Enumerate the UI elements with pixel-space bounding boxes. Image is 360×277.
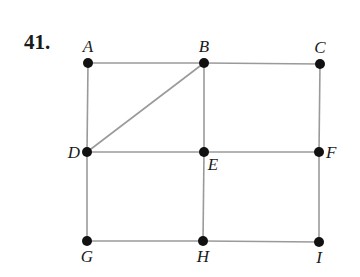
edge-H-I xyxy=(203,241,319,242)
vertex-I xyxy=(314,237,324,247)
vertex-C xyxy=(315,59,325,69)
vertex-label-D: D xyxy=(67,143,81,162)
vertex-label-I: I xyxy=(315,248,323,267)
vertex-G xyxy=(82,236,92,246)
edge-B-D xyxy=(87,63,204,152)
vertex-label-F: F xyxy=(325,143,337,162)
edge-A-D xyxy=(87,63,88,152)
graph-diagram: ABCDEFGHI xyxy=(0,0,360,277)
edge-E-H xyxy=(203,152,204,241)
vertex-label-C: C xyxy=(314,38,326,57)
vertex-B xyxy=(199,58,209,68)
edge-C-F xyxy=(319,64,320,152)
vertex-D xyxy=(82,147,92,157)
graph-figure: 41. ABCDEFGHI xyxy=(0,0,360,277)
vertex-F xyxy=(314,147,324,157)
vertex-label-B: B xyxy=(199,37,210,56)
vertex-label-H: H xyxy=(196,247,211,266)
vertex-A xyxy=(83,58,93,68)
edge-B-C xyxy=(204,63,320,64)
vertex-label-E: E xyxy=(207,155,219,174)
vertex-label-G: G xyxy=(81,247,93,266)
vertex-H xyxy=(198,236,208,246)
vertex-label-A: A xyxy=(82,37,94,56)
